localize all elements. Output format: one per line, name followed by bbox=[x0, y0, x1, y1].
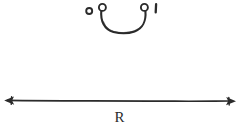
interval-arc-group bbox=[101, 11, 145, 34]
zero-marker-group bbox=[86, 8, 92, 14]
arc-left-endpoint-icon bbox=[99, 4, 106, 11]
hand-drawn-figure: R bbox=[0, 0, 240, 128]
zero-marker-icon bbox=[86, 8, 92, 14]
axis-label-R: R bbox=[114, 109, 124, 125]
arc-left-endpoint-group bbox=[99, 4, 106, 11]
real-line-group bbox=[4, 96, 236, 105]
arc-right-endpoint-icon bbox=[141, 4, 148, 11]
interval-arc bbox=[101, 11, 145, 34]
real-line-shaft bbox=[8, 100, 233, 101]
figure-canvas: R hand-drawn real line with open interva… bbox=[0, 0, 240, 128]
arc-right-endpoint-group bbox=[141, 4, 148, 11]
